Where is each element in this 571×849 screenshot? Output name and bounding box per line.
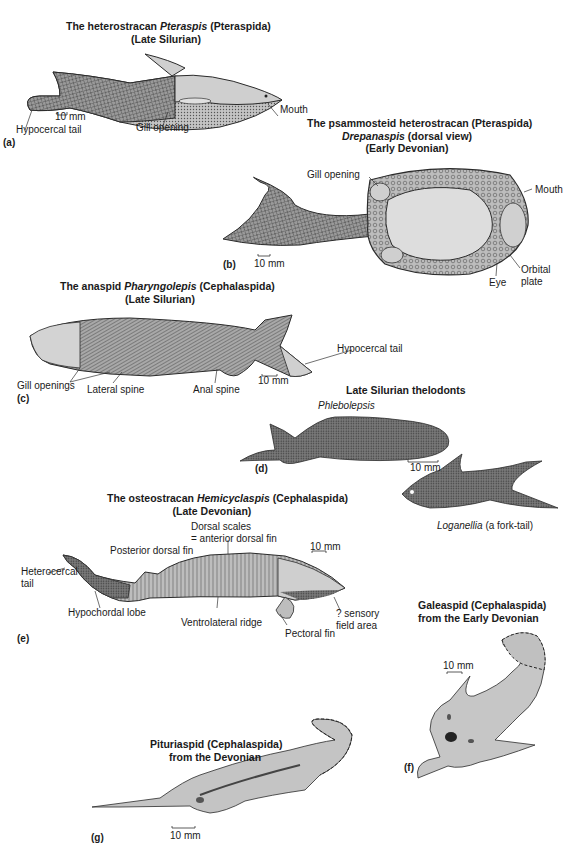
pharyngolepis-drawing bbox=[30, 315, 352, 383]
label-anal-spine: Anal spine bbox=[193, 384, 240, 396]
label-hypocercal-tail-a: Hypocercal tail bbox=[16, 124, 82, 136]
label-scale-d: 10 mm bbox=[410, 462, 441, 474]
title-species: Pharyngolepis bbox=[124, 280, 196, 292]
title-text: (dorsal view) bbox=[405, 130, 472, 142]
label-scale-a: 10 mm bbox=[55, 111, 86, 123]
panel-letter-g: (g) bbox=[91, 832, 104, 843]
label-heterocercal-tail: Heterocercal tail bbox=[21, 566, 78, 590]
label-text: Orbital bbox=[521, 264, 550, 275]
label-scale-c: 10 mm bbox=[258, 375, 289, 387]
panel-letter-d: (d) bbox=[255, 463, 268, 474]
pituriaspid-drawing bbox=[92, 719, 352, 828]
title-text: from the Early Devonian bbox=[418, 612, 539, 624]
title-text: Galeaspid (Cephalaspida) bbox=[418, 599, 546, 611]
title-species: Drepanaspis bbox=[342, 130, 405, 142]
label-scale-e: 10 mm bbox=[310, 541, 341, 553]
label-ventrolateral-ridge: Ventrolateral ridge bbox=[181, 617, 262, 629]
label-hypochordal-lobe: Hypochordal lobe bbox=[68, 607, 146, 619]
title-species: Pteraspis bbox=[160, 20, 207, 32]
title-text: (Cephalaspida) bbox=[197, 280, 275, 292]
panel-letter-b: (b) bbox=[223, 259, 236, 270]
label-gill-opening-a: Gill opening bbox=[136, 122, 189, 134]
label-text: Heterocercal bbox=[21, 566, 78, 577]
title-period: (Early Devonian) bbox=[366, 142, 449, 154]
label-lateral-spine: Lateral spine bbox=[87, 384, 144, 396]
label-sensory-field: ? sensory field area bbox=[336, 608, 379, 632]
label-scale-b: 10 mm bbox=[254, 258, 285, 270]
galeaspid-drawing bbox=[417, 633, 545, 778]
label-orbital-plate: Orbital plate bbox=[521, 264, 550, 288]
title-text: Pituriaspid (Cephalaspida) bbox=[150, 738, 282, 750]
panel-b-title: The psammosteid heterostracan (Pteraspid… bbox=[307, 117, 507, 155]
title-species: Hemicyclaspis bbox=[197, 492, 270, 504]
title-text: The osteostracan bbox=[107, 492, 197, 504]
label-loganellia: Loganellia (a fork-tail) bbox=[437, 520, 533, 532]
panel-c-title: The anaspid Pharyngolepis (Cephalaspida)… bbox=[60, 280, 260, 305]
label-text: field area bbox=[336, 620, 377, 631]
title-text: (Pteraspida) bbox=[207, 20, 271, 32]
label-phlebolepsis: Phlebolepsis bbox=[318, 400, 375, 412]
title-text: (Cephalaspida) bbox=[270, 492, 348, 504]
label-scale-f: 10 mm bbox=[443, 660, 474, 672]
panel-letter-a: (a) bbox=[3, 137, 15, 148]
title-text: The psammosteid heterostracan (Pteraspid… bbox=[307, 117, 532, 129]
label-species: Loganellia bbox=[437, 520, 483, 531]
title-period: (Late Silurian) bbox=[131, 33, 201, 45]
panel-letter-c: (c) bbox=[17, 393, 29, 404]
panel-d-title: Late Silurian thelodonts bbox=[346, 384, 466, 397]
title-text: The heterostracan bbox=[66, 20, 160, 32]
panel-a-title: The heterostracan Pteraspis (Pteraspida)… bbox=[66, 20, 266, 45]
label-eye: Eye bbox=[489, 277, 506, 289]
title-period: (Late Silurian) bbox=[125, 293, 195, 305]
label-posterior-dorsal-fin: Posterior dorsal fin bbox=[110, 545, 193, 557]
label-hypocercal-tail-c: Hypocercal tail bbox=[337, 343, 403, 355]
phlebolepsis-drawing bbox=[240, 417, 449, 464]
panel-g-title: Pituriaspid (Cephalaspida) from the Devo… bbox=[150, 738, 280, 763]
label-gill-opening-b: Gill opening bbox=[307, 169, 360, 181]
label-pectoral-fin: Pectoral fin bbox=[285, 628, 335, 640]
title-period: (Late Devonian) bbox=[173, 505, 252, 517]
label-mouth-a: Mouth bbox=[280, 104, 308, 116]
label-text: (a fork-tail) bbox=[483, 520, 534, 531]
label-text: = anterior dorsal fin bbox=[191, 533, 277, 544]
panel-letter-e: (e) bbox=[17, 633, 29, 644]
label-text: Dorsal scales bbox=[191, 521, 251, 532]
panel-e-title: The osteostracan Hemicyclaspis (Cephalas… bbox=[107, 492, 317, 517]
label-dorsal-scales: Dorsal scales = anterior dorsal fin bbox=[191, 521, 277, 545]
label-scale-g: 10 mm bbox=[170, 830, 201, 842]
title-text: The anaspid bbox=[60, 280, 124, 292]
label-gill-openings: Gill openings bbox=[17, 380, 75, 392]
label-text: plate bbox=[521, 276, 543, 287]
label-mouth-b: Mouth bbox=[535, 184, 563, 196]
panel-letter-f: (f) bbox=[404, 762, 414, 773]
label-text: tail bbox=[21, 578, 34, 589]
label-text: ? sensory bbox=[336, 608, 379, 619]
title-text: from the Devonian bbox=[169, 751, 261, 763]
panel-f-title: Galeaspid (Cephalaspida) from the Early … bbox=[418, 599, 538, 624]
